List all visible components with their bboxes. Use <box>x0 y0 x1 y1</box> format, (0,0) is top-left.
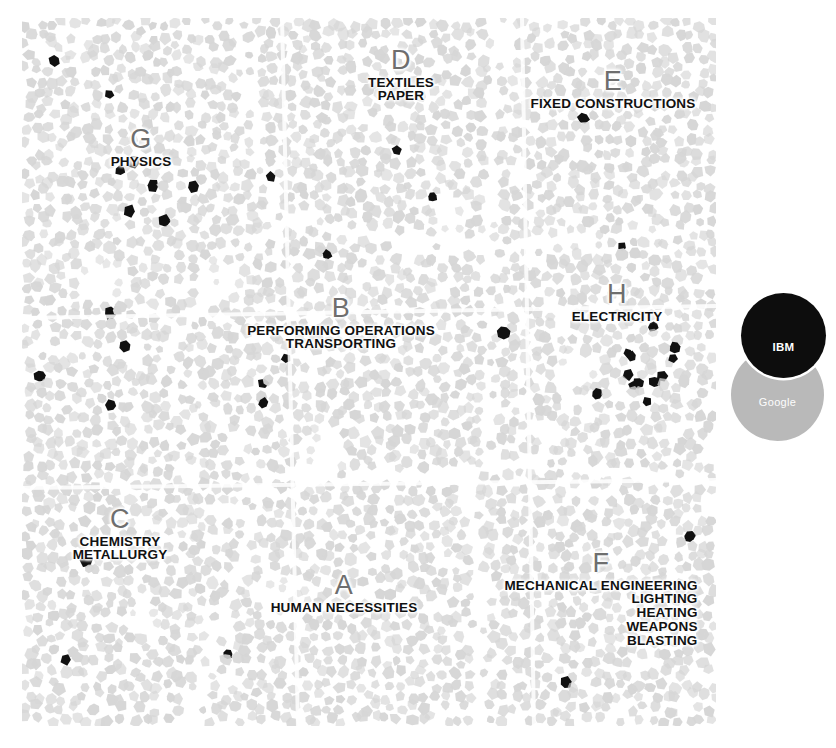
voronoi-cell-layer <box>22 18 716 726</box>
legend-label-google: Google <box>759 396 796 408</box>
legend-label-ibm: IBM <box>773 341 795 353</box>
legend-item-ibm[interactable]: IBM <box>741 293 826 378</box>
patent-map-stage: G PHYSICS D TEXTILES PAPER E FIXED CONST… <box>0 0 836 748</box>
legend: Google IBM <box>723 293 827 465</box>
patent-map-canvas[interactable] <box>22 18 716 726</box>
